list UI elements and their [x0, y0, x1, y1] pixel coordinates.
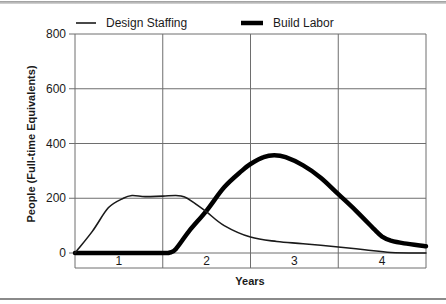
- y-tick-label: 0: [59, 246, 66, 260]
- y-tick-label: 200: [46, 191, 66, 205]
- y-tick-label: 400: [46, 137, 66, 151]
- year-band-label: 1: [116, 254, 123, 268]
- year-band-label: 2: [203, 254, 210, 268]
- y-axis-title: People (Full-time Equivalents): [25, 65, 37, 222]
- y-tick-label: 800: [46, 27, 66, 41]
- year-band-label: 4: [379, 254, 386, 268]
- y-axis-ticks: 0200400600800: [46, 27, 66, 260]
- legend-label-build-labor: Build Labor: [273, 16, 334, 30]
- staffing-line-chart: Design Staffing Build Labor People (Full…: [0, 0, 446, 304]
- legend-label-design-staffing: Design Staffing: [106, 16, 187, 30]
- legend: Design Staffing Build Labor: [76, 16, 334, 30]
- y-tick-label: 600: [46, 82, 66, 96]
- bottom-border-rule: [0, 298, 446, 300]
- x-axis-title: Years: [235, 275, 264, 287]
- plot-grid: [69, 34, 426, 268]
- year-band-label: 3: [291, 254, 298, 268]
